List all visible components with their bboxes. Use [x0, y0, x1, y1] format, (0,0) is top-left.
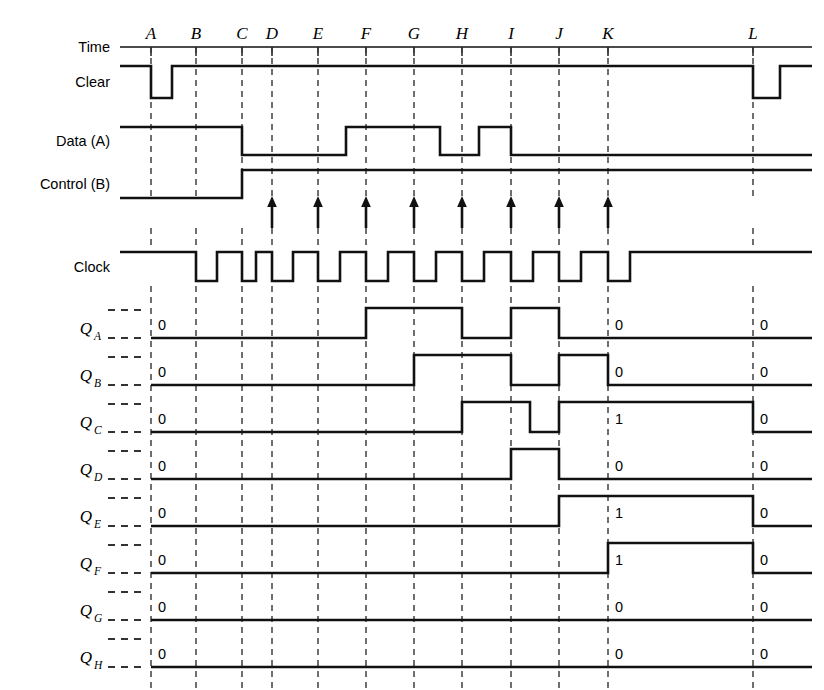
- time-marker-C: C: [236, 24, 248, 43]
- output-initial-value-qh: 0: [158, 646, 166, 662]
- output-label-qa: Q: [80, 319, 92, 338]
- output-initial-value-qa: 0: [158, 317, 166, 333]
- waveform-clear: [120, 66, 812, 98]
- timing-diagram: TimeABCDEFGHIJKLClearData (A)Control (B)…: [0, 0, 824, 690]
- waveform-qa: [151, 308, 812, 338]
- signal-label-control_b: Control (B): [40, 176, 110, 192]
- time-marker-K: K: [601, 24, 615, 43]
- output-value-at-k-qg: 0: [615, 599, 623, 615]
- output-value-at-l-qf: 0: [760, 552, 768, 568]
- output-value-at-k-qe: 1: [615, 505, 623, 521]
- output-value-at-l-qh: 0: [760, 646, 768, 662]
- clock-edge-arrow-H: [457, 196, 467, 228]
- output-value-at-k-qa: 0: [615, 317, 623, 333]
- vertical-time-dashes: [108, 47, 753, 690]
- time-marker-E: E: [312, 24, 324, 43]
- output-initial-value-qd: 0: [158, 458, 166, 474]
- time-marker-F: F: [360, 24, 372, 43]
- output-label-qc: Q: [80, 413, 92, 432]
- output-label-qg: Q: [80, 601, 92, 620]
- waveform-qe: [151, 496, 812, 526]
- output-label-qh: Q: [80, 648, 92, 667]
- output-value-at-k-qd: 0: [615, 458, 623, 474]
- output-label-qf: Q: [80, 554, 92, 573]
- time-marker-B: B: [191, 24, 202, 43]
- output-value-at-l-qd: 0: [760, 458, 768, 474]
- time-marker-L: L: [747, 24, 757, 43]
- output-value-at-k-qh: 0: [615, 646, 623, 662]
- waveform-clock: [120, 252, 812, 281]
- waveform-layer: [120, 66, 812, 667]
- output-initial-value-qe: 0: [158, 505, 166, 521]
- clock-edge-arrow-I: [506, 196, 516, 228]
- output-sublabel-qe: E: [93, 518, 101, 530]
- signal-label-data_a: Data (A): [56, 133, 110, 149]
- output-sublabel-qa: A: [93, 330, 102, 342]
- output-initial-value-qc: 0: [158, 411, 166, 427]
- output-sublabel-qh: H: [93, 659, 103, 671]
- waveform-control_b: [120, 170, 812, 198]
- waveform-data_a: [120, 127, 812, 155]
- output-value-at-l-qe: 0: [760, 505, 768, 521]
- output-value-at-k-qc: 1: [615, 411, 623, 427]
- time-marker-H: H: [455, 24, 470, 43]
- output-value-at-l-qb: 0: [760, 364, 768, 380]
- clock-edge-arrow-E: [313, 196, 323, 228]
- clock-edge-arrow-G: [409, 196, 419, 228]
- time-marker-D: D: [265, 24, 279, 43]
- output-initial-value-qb: 0: [158, 364, 166, 380]
- clock-edge-arrow-D: [267, 196, 277, 228]
- waveform-qf: [151, 543, 812, 573]
- output-sublabel-qf: F: [93, 565, 102, 577]
- waveform-qd: [151, 449, 812, 479]
- output-value-at-l-qg: 0: [760, 599, 768, 615]
- output-sublabel-qd: D: [93, 471, 103, 483]
- output-sublabel-qg: G: [94, 612, 103, 624]
- output-label-qb: Q: [80, 366, 92, 385]
- output-initial-value-qf: 0: [158, 552, 166, 568]
- waveform-qb: [151, 355, 812, 385]
- time-marker-J: J: [555, 24, 564, 43]
- clock-edge-arrow-F: [361, 196, 371, 228]
- clock-edge-arrow-J: [554, 196, 564, 228]
- output-value-at-k-qb: 0: [615, 364, 623, 380]
- time-axis-label: Time: [78, 39, 110, 55]
- time-marker-A: A: [145, 24, 157, 43]
- diagram-static-layer: [120, 47, 812, 228]
- output-initial-value-qg: 0: [158, 599, 166, 615]
- waveform-qc: [151, 402, 812, 432]
- clock-edge-arrow-K: [603, 196, 613, 228]
- output-value-at-l-qa: 0: [760, 317, 768, 333]
- output-value-at-k-qf: 1: [615, 552, 623, 568]
- time-marker-I: I: [507, 24, 515, 43]
- output-label-qd: Q: [80, 460, 92, 479]
- output-sublabel-qc: C: [94, 424, 102, 436]
- output-value-at-l-qc: 0: [760, 411, 768, 427]
- signal-label-clear: Clear: [75, 74, 110, 90]
- time-marker-G: G: [408, 24, 420, 43]
- output-label-qe: Q: [80, 507, 92, 526]
- output-sublabel-qb: B: [94, 377, 101, 389]
- signal-label-clock: Clock: [74, 259, 111, 275]
